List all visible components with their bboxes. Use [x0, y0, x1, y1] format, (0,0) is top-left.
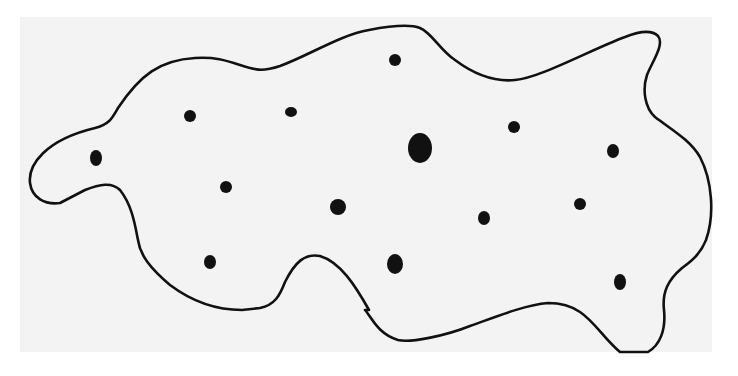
dot [607, 144, 619, 158]
dot [508, 121, 520, 133]
dots-group [90, 54, 626, 290]
dot [478, 211, 490, 225]
dot [204, 255, 216, 269]
dot [387, 254, 403, 274]
dot [220, 181, 232, 193]
large-dot [408, 133, 432, 163]
dot [184, 110, 196, 122]
dot [574, 198, 586, 210]
dot [614, 274, 626, 290]
dot [330, 199, 346, 215]
blob-outline [30, 26, 711, 352]
dot [90, 150, 102, 166]
dot [285, 107, 297, 117]
dot [389, 54, 401, 66]
blob-diagram [0, 0, 738, 376]
